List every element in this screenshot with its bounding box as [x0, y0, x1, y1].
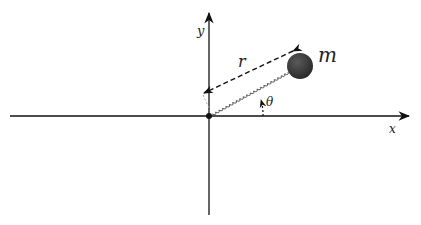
radius-vector-tick [203, 95, 209, 108]
angle-label: θ [266, 95, 274, 109]
mass-label: m [318, 43, 337, 67]
angle-arc [261, 100, 263, 116]
origin-point [206, 113, 212, 119]
x-axis-label: x [389, 122, 396, 136]
diagram-canvas: y x r θ m [0, 0, 421, 225]
radius-label: r [238, 52, 247, 71]
radius-vector [204, 51, 293, 93]
spring [212, 72, 288, 115]
y-axis-label: y [196, 23, 205, 38]
mass [287, 53, 313, 79]
